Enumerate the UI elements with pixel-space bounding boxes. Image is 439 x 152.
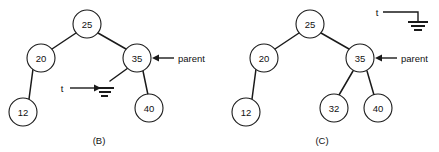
null-ground-icon-c <box>408 22 428 30</box>
edge-35-to-null <box>110 68 128 81</box>
tree-node-label: 35 <box>132 53 143 64</box>
tree-node-25-b: 25 <box>73 10 101 38</box>
parent-annotation-label-c: parent <box>401 53 428 64</box>
panel-c: t 25 20 35 <box>232 7 428 146</box>
tree-node-12-c: 12 <box>232 98 260 126</box>
parent-annotation-arrow-c <box>375 55 397 62</box>
panel-caption-c: (C) <box>315 135 328 146</box>
tree-node-25-c: 25 <box>296 10 324 38</box>
parent-annotation-label-b: parent <box>178 53 205 64</box>
pointer-t-label-c: t <box>376 7 379 18</box>
figure-root: t 25 20 35 12 <box>0 0 439 152</box>
edge-25-to-20 <box>52 33 76 49</box>
edge-35-to-40 <box>367 71 374 95</box>
pointer-t-label-b: t <box>61 83 64 94</box>
tree-node-35-b: 35 <box>123 44 151 72</box>
tree-node-12-b: 12 <box>9 98 37 126</box>
tree-node-label: 40 <box>373 103 384 114</box>
tree-node-35-c: 35 <box>346 44 374 72</box>
tree-node-40-b: 40 <box>135 94 163 122</box>
pointer-t-arrow-b <box>70 85 101 92</box>
tree-node-label: 12 <box>18 107 29 118</box>
edge-20-to-12 <box>252 69 256 99</box>
tree-node-label: 25 <box>82 19 93 30</box>
tree-node-label: 40 <box>144 103 155 114</box>
tree-node-20-b: 20 <box>27 44 55 72</box>
panel-caption-b: (B) <box>93 135 106 146</box>
tree-node-label: 32 <box>329 103 340 114</box>
binary-search-tree-figure: t 25 20 35 12 <box>0 0 439 152</box>
edge-25-to-20 <box>275 33 299 49</box>
tree-node-32-c: 32 <box>320 94 348 122</box>
edge-35-to-32 <box>339 71 353 95</box>
pointer-t-elbow-c <box>383 12 418 21</box>
tree-node-40-c: 40 <box>364 94 392 122</box>
parent-annotation-arrow-b <box>152 55 174 62</box>
panel-b: t 25 20 35 12 <box>9 10 205 146</box>
tree-node-label: 12 <box>241 107 252 118</box>
panel-b-nodes: 25 20 35 12 40 <box>9 10 163 126</box>
edge-20-to-12 <box>29 69 33 99</box>
panel-c-nodes: 25 20 35 12 32 <box>232 10 392 126</box>
edge-25-to-35 <box>98 33 126 49</box>
tree-node-label: 20 <box>36 53 47 64</box>
null-ground-icon-b <box>96 88 114 96</box>
edge-25-to-35 <box>321 33 349 49</box>
tree-node-label: 25 <box>305 19 316 30</box>
tree-node-20-c: 20 <box>250 44 278 72</box>
edge-35-to-40 <box>143 71 148 95</box>
tree-node-label: 35 <box>355 53 366 64</box>
tree-node-label: 20 <box>259 53 270 64</box>
